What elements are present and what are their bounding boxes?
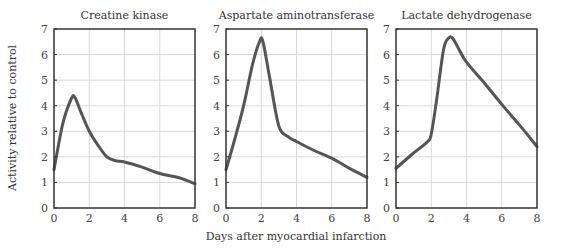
panel-aspartate-aminotransferase: 0123456702468Aspartate aminotransferase bbox=[213, 9, 374, 225]
x-tick-label: 6 bbox=[328, 212, 335, 225]
y-axis-label: Activity relative to control bbox=[6, 44, 19, 192]
panel-lactate-dehydrogenase: 0123456702468Lactate dehydrogenase bbox=[383, 9, 541, 225]
x-tick-label: 0 bbox=[51, 212, 58, 225]
y-tick-label: 4 bbox=[213, 100, 220, 113]
x-tick-label: 4 bbox=[293, 212, 300, 225]
y-tick-label: 6 bbox=[213, 49, 220, 62]
y-tick-label: 3 bbox=[383, 125, 390, 138]
x-tick-label: 8 bbox=[192, 212, 199, 225]
x-tick-label: 6 bbox=[156, 212, 163, 225]
x-tick-label: 0 bbox=[393, 212, 400, 225]
x-axis-label: Days after myocardial infarction bbox=[206, 230, 387, 243]
y-tick-label: 1 bbox=[41, 176, 48, 189]
y-tick-label: 5 bbox=[213, 74, 220, 87]
y-tick-label: 7 bbox=[383, 23, 390, 36]
y-tick-label: 0 bbox=[213, 202, 220, 215]
y-tick-label: 3 bbox=[213, 125, 220, 138]
y-tick-label: 1 bbox=[383, 176, 390, 189]
x-tick-label: 2 bbox=[428, 212, 435, 225]
y-tick-label: 2 bbox=[213, 151, 220, 164]
panel-title: Aspartate aminotransferase bbox=[218, 9, 375, 22]
y-tick-label: 0 bbox=[383, 202, 390, 215]
x-tick-label: 6 bbox=[498, 212, 505, 225]
x-tick-label: 0 bbox=[223, 212, 230, 225]
x-tick-label: 8 bbox=[534, 212, 541, 225]
y-tick-label: 6 bbox=[383, 49, 390, 62]
y-tick-label: 7 bbox=[213, 23, 220, 36]
x-tick-label: 4 bbox=[463, 212, 470, 225]
chart-figure: 0123456702468Creatine kinase012345670246… bbox=[0, 0, 563, 249]
y-tick-label: 2 bbox=[41, 151, 48, 164]
y-tick-label: 5 bbox=[383, 74, 390, 87]
panel-creatine-kinase: 0123456702468Creatine kinase bbox=[41, 9, 199, 225]
y-tick-label: 5 bbox=[41, 74, 48, 87]
y-tick-label: 2 bbox=[383, 151, 390, 164]
x-tick-label: 8 bbox=[364, 212, 371, 225]
panel-title: Creatine kinase bbox=[81, 9, 169, 22]
x-tick-label: 4 bbox=[121, 212, 128, 225]
y-tick-label: 0 bbox=[41, 202, 48, 215]
y-tick-label: 6 bbox=[41, 49, 48, 62]
y-tick-label: 4 bbox=[41, 100, 48, 113]
y-tick-label: 3 bbox=[41, 125, 48, 138]
panel-title: Lactate dehydrogenase bbox=[401, 9, 532, 22]
x-tick-label: 2 bbox=[258, 212, 265, 225]
x-tick-label: 2 bbox=[86, 212, 93, 225]
y-tick-label: 1 bbox=[213, 176, 220, 189]
y-tick-label: 7 bbox=[41, 23, 48, 36]
y-tick-label: 4 bbox=[383, 100, 390, 113]
